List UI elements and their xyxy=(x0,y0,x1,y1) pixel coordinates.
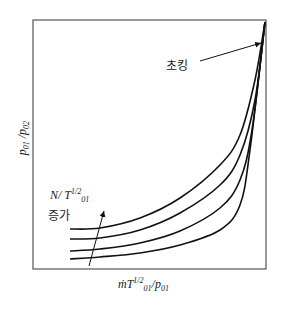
curve-2 xyxy=(70,22,265,239)
y-axis-label: p01 /p02 xyxy=(15,121,31,155)
speed-parameter-label: N/ T1/201 xyxy=(50,186,89,206)
choke-arrow xyxy=(200,43,261,61)
chart-canvas xyxy=(0,0,284,309)
x-axis-label: ṁT1/201/p01 xyxy=(118,276,169,293)
plot-frame xyxy=(33,20,266,269)
increase-annotation: 증가 xyxy=(48,206,70,223)
choke-annotation: 초킹 xyxy=(166,56,188,73)
curve-1 xyxy=(70,22,265,229)
